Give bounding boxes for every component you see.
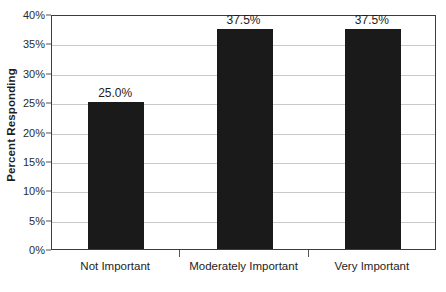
y-axis-tick-label: 40%: [23, 9, 45, 21]
x-axis-tick-mark: [308, 250, 309, 257]
x-axis-tick-label: Not Important: [80, 260, 150, 272]
bars-group: [52, 16, 435, 249]
x-axis-tick-labels: Not ImportantModerately ImportantVery Im…: [51, 260, 436, 280]
y-axis-tick-label: 30%: [23, 68, 45, 80]
bar-chart-figure: Percent Responding 0%5%10%15%20%25%30%35…: [0, 0, 446, 292]
bar: [345, 29, 401, 249]
y-axis-tick-labels: 0%5%10%15%20%25%30%35%40%: [20, 15, 51, 250]
y-axis-tick-label: 25%: [23, 97, 45, 109]
x-axis-tick-label: Moderately Important: [189, 260, 298, 272]
y-axis-tick-label: 5%: [29, 215, 45, 227]
x-axis-tick-mark: [179, 250, 180, 257]
y-axis-tick-label: 15%: [23, 156, 45, 168]
y-axis-title-text: Percent Responding: [5, 68, 17, 182]
bar: [88, 102, 144, 249]
y-axis-tick-label: 10%: [23, 185, 45, 197]
y-axis-tick-label: 20%: [23, 127, 45, 139]
y-axis-title: Percent Responding: [0, 0, 22, 250]
bar: [217, 29, 273, 249]
x-axis-tick-label: Very Important: [334, 260, 409, 272]
y-axis-tick-label: 35%: [23, 38, 45, 50]
plot-area: [51, 15, 436, 250]
x-axis-tick-marks: [51, 250, 436, 257]
y-axis-tick-label: 0%: [29, 244, 45, 256]
